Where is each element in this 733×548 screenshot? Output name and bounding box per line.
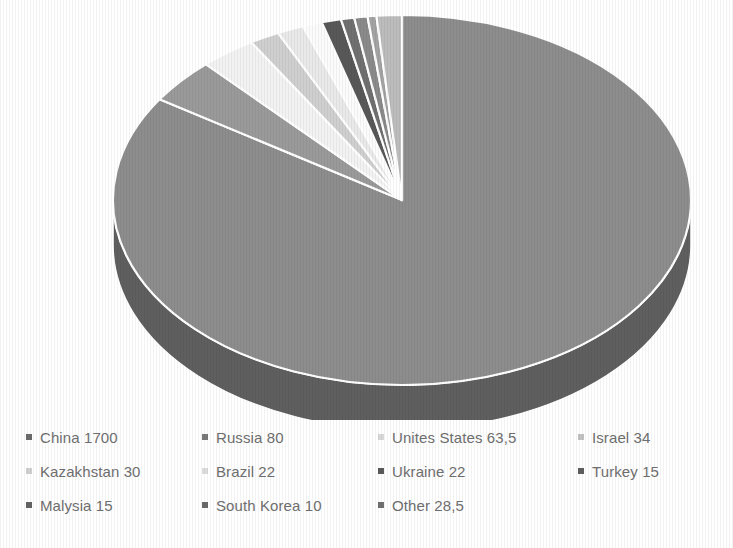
legend-item[interactable]: Kazakhstan 30 — [26, 464, 202, 479]
pie-chart-figure: China 1700Russia 80Unites States 63,5Isr… — [0, 0, 733, 548]
legend-item-label: Ukraine 22 — [392, 464, 466, 479]
square-marker-icon — [378, 502, 384, 508]
legend-item-label: Russia 80 — [216, 430, 284, 445]
legend-item-label: Unites States 63,5 — [392, 430, 516, 445]
square-marker-icon — [578, 434, 584, 440]
legend-item[interactable]: China 1700 — [26, 430, 202, 445]
legend-item-label: Malysia 15 — [40, 498, 113, 513]
square-marker-icon — [26, 502, 32, 508]
legend-item-label: Other 28,5 — [392, 498, 464, 513]
square-marker-icon — [202, 434, 208, 440]
pie-chart-graphic — [0, 0, 733, 420]
legend-item-label: South Korea 10 — [216, 498, 322, 513]
legend-item-label: China 1700 — [40, 430, 118, 445]
legend-item-label: Israel 34 — [592, 430, 650, 445]
legend-item[interactable]: Israel 34 — [578, 430, 718, 445]
legend-item[interactable]: Turkey 15 — [578, 464, 718, 479]
square-marker-icon — [378, 468, 384, 474]
legend-item[interactable]: Brazil 22 — [202, 464, 378, 479]
legend-item-label: Brazil 22 — [216, 464, 275, 479]
square-marker-icon — [202, 502, 208, 508]
legend-item[interactable]: Russia 80 — [202, 430, 378, 445]
square-marker-icon — [578, 468, 584, 474]
legend-item[interactable]: Unites States 63,5 — [378, 430, 578, 445]
legend-item-label: Kazakhstan 30 — [40, 464, 141, 479]
legend-item-label: Turkey 15 — [592, 464, 659, 479]
legend-item[interactable]: Ukraine 22 — [378, 464, 578, 479]
square-marker-icon — [202, 468, 208, 474]
legend-item[interactable]: Other 28,5 — [378, 498, 578, 513]
legend-item[interactable]: South Korea 10 — [202, 498, 378, 513]
pie-top-surface — [113, 15, 691, 385]
square-marker-icon — [26, 434, 32, 440]
chart-legend: China 1700Russia 80Unites States 63,5Isr… — [26, 420, 716, 522]
square-marker-icon — [26, 468, 32, 474]
legend-item[interactable]: Malysia 15 — [26, 498, 202, 513]
square-marker-icon — [378, 434, 384, 440]
